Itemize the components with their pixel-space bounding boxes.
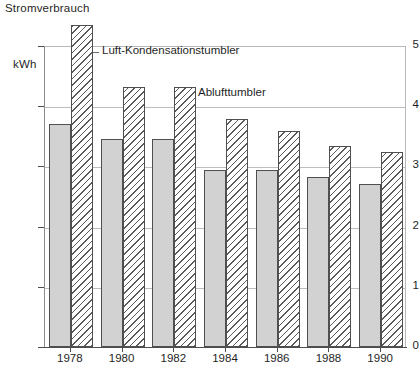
bar-1982-luft-kondensationstumbler xyxy=(174,87,196,347)
bar-1984-luft-kondensationstumbler xyxy=(226,119,248,347)
series-label-luft-kondensationstumbler: Luft-Kondensationstumbler xyxy=(102,44,239,56)
x-axis-tick-label: 1990 xyxy=(350,352,410,364)
y-axis-tick-label: 5 xyxy=(389,38,419,50)
y-axis-tick-mark xyxy=(38,166,44,167)
bar-1990-ablufttumbler xyxy=(359,184,381,347)
series-label-ablufttumbler: Ablufttumbler xyxy=(198,86,266,98)
bar-1990-luft-kondensationstumbler xyxy=(381,152,403,347)
bar-1980-luft-kondensationstumbler xyxy=(123,87,145,347)
x-axis-tick-mark xyxy=(277,347,278,352)
x-axis-tick-mark xyxy=(122,347,123,352)
bar-1978-ablufttumbler xyxy=(49,124,71,347)
bar-1982-ablufttumbler xyxy=(152,139,174,347)
bar-1986-ablufttumbler xyxy=(256,170,278,347)
chart-container: Stromverbrauch kWh 012345 19781980198219… xyxy=(0,0,419,386)
x-axis-tick-mark xyxy=(173,347,174,352)
gridline xyxy=(45,107,405,108)
y-axis-tick-label: 4 xyxy=(389,98,419,110)
bar-1986-luft-kondensationstumbler xyxy=(278,131,300,347)
bar-1980-ablufttumbler xyxy=(101,139,123,347)
y-axis-tick-mark xyxy=(38,227,44,228)
bar-1988-luft-kondensationstumbler xyxy=(329,146,351,347)
bar-1978-luft-kondensationstumbler xyxy=(71,25,93,347)
bar-1988-ablufttumbler xyxy=(307,177,329,347)
x-axis-tick-mark xyxy=(70,347,71,352)
x-axis-tick-mark xyxy=(380,347,381,352)
y-axis-tick-mark xyxy=(38,347,44,348)
bar-1984-ablufttumbler xyxy=(204,170,226,347)
x-axis-tick-mark xyxy=(225,347,226,352)
y-axis-tick-mark xyxy=(38,46,44,47)
x-axis-tick-mark xyxy=(328,347,329,352)
y-axis-tick-mark xyxy=(38,106,44,107)
y-axis-unit-label: kWh xyxy=(13,58,37,70)
y-axis-tick-mark xyxy=(38,287,44,288)
chart-title: Stromverbrauch xyxy=(5,2,90,14)
